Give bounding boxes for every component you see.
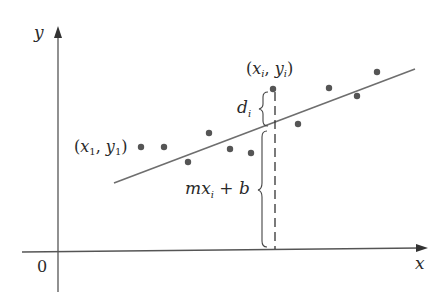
x-axis-label: x: [415, 253, 425, 273]
line-value-label: mxi + b: [185, 178, 250, 200]
line-value-brace: [258, 131, 267, 247]
data-point: [185, 159, 191, 165]
data-point: [161, 144, 167, 150]
origin-label: 0: [37, 257, 47, 276]
data-point: [138, 144, 144, 150]
data-point: [354, 93, 360, 99]
ith-point-label: (xi, yi): [246, 59, 293, 79]
x-axis-arrow-icon: [416, 244, 428, 252]
data-point: [374, 69, 380, 75]
first-point-label: (x1, y1): [74, 137, 128, 157]
data-point: [227, 146, 233, 152]
y-axis-label: y: [33, 22, 44, 42]
y-axis-arrow-icon: [54, 26, 62, 38]
data-point-i: [270, 86, 276, 92]
data-points: [138, 69, 380, 165]
data-point: [326, 85, 332, 91]
regression-line: [114, 69, 415, 183]
data-point: [248, 150, 254, 156]
regression-diagram: y x 0 (x1, y1) (xi, yi) di mxi + b: [0, 0, 447, 305]
deviation-brace: [259, 92, 268, 126]
deviation-label: di: [237, 97, 251, 119]
x-axis: [22, 248, 420, 252]
data-point: [206, 130, 212, 136]
data-point: [295, 121, 301, 127]
